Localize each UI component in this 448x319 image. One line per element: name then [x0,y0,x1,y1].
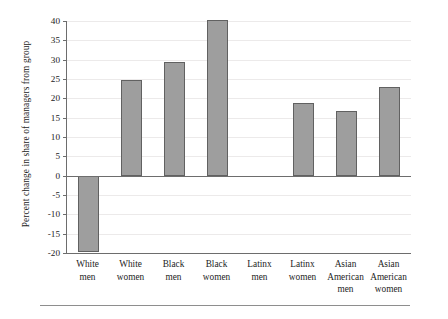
x-axis-tick-label-line: Asian [324,258,367,271]
y-axis-tick-label: -10 [48,209,60,219]
x-axis-tick-label-line: Latinx [281,258,324,271]
bar [121,80,143,176]
y-axis-tick [63,195,67,196]
x-axis-tick-label-line: men [324,283,367,296]
x-axis-tick-label-line: women [281,271,324,284]
y-axis-tick [63,214,67,215]
x-axis-tick-label: Whitewomen [109,258,152,283]
x-axis-tick-label-line: Asian [367,258,410,271]
x-axis-tick-label-line: White [66,258,109,271]
y-axis-tick-label: 15 [51,113,60,123]
y-axis-tick [63,21,67,22]
x-axis-tick-label: Latinxmen [238,258,281,283]
footer-rule [40,305,410,306]
x-axis-tick-label-line: women [195,271,238,284]
y-axis-tick [63,79,67,80]
x-axis-tick-label: Whitemen [66,258,109,283]
y-axis-tick-label: -5 [52,190,60,200]
y-axis-tick [63,137,67,138]
y-axis-tick-label: 0 [55,171,60,181]
x-axis-tick-label-line: men [66,271,109,284]
y-axis-tick-label: -20 [48,248,60,258]
y-axis-tick [63,234,67,235]
y-axis-tick-label: 35 [51,35,60,45]
y-axis-tick [63,253,67,254]
bar-chart-figure: Percent change in share of managers from… [0,0,448,319]
y-axis-tick-label: 40 [51,16,60,26]
x-axis-tick-label-line: men [238,271,281,284]
x-axis-tick-label-line: Black [152,258,195,271]
x-axis-tick-label-line: American [367,271,410,284]
x-axis-tick-label-line: men [152,271,195,284]
y-axis-tick-label: 30 [51,55,60,65]
bar [336,111,358,175]
bar [293,103,315,175]
y-axis-tick-label: 10 [51,132,60,142]
bar [207,20,229,175]
x-axis-tick-label-line: American [324,271,367,284]
x-axis-tick-label: Blackwomen [195,258,238,283]
y-axis-tick [63,98,67,99]
x-axis-tick-label: Latinxwomen [281,258,324,283]
zero-baseline [67,176,411,177]
x-axis-tick-label-line: Latinx [238,258,281,271]
plot-area: 4035302520151050-5-10-15-20 [66,21,411,254]
x-axis-tick-label-line: women [367,283,410,296]
y-axis-label: Percent change in share of managers from… [21,14,31,254]
bar-series [67,21,411,253]
x-axis-tick-label: AsianAmericanmen [324,258,367,296]
y-axis-tick [63,118,67,119]
bar [78,176,100,253]
bar [379,87,401,176]
y-axis-tick [63,156,67,157]
x-axis-tick-label-line: White [109,258,152,271]
y-axis-tick-label: -15 [48,229,60,239]
y-axis-tick-label: 5 [55,151,60,161]
x-axis-tick-label: AsianAmericanwomen [367,258,410,296]
x-axis-tick-label-line: Black [195,258,238,271]
x-axis-tick-labels: WhitemenWhitewomenBlackmenBlackwomenLati… [66,258,411,306]
x-axis-tick-label: Blackmen [152,258,195,283]
y-axis-tick-label: 20 [51,93,60,103]
bar [164,62,186,176]
y-axis-tick [63,60,67,61]
x-axis-tick-label-line: women [109,271,152,284]
y-axis-tick-label: 25 [51,74,60,84]
y-axis-tick [63,40,67,41]
